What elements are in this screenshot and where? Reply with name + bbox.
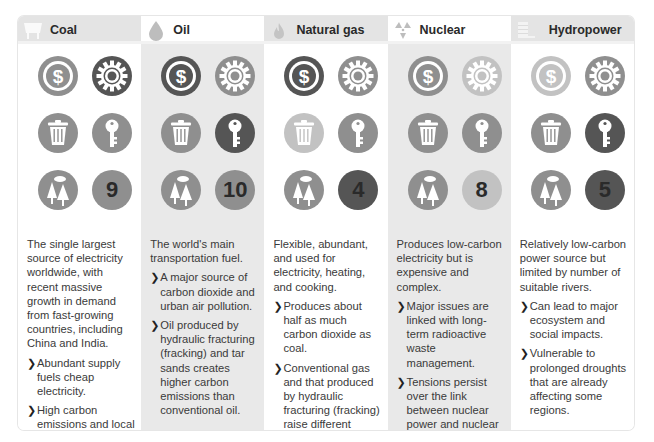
score-badge: 4: [338, 170, 378, 210]
score-value: 10: [223, 177, 247, 203]
bullet-item: ❯Produces about half as much carbon diox…: [273, 299, 381, 356]
rating-icons: $9: [18, 56, 141, 228]
score-value: 8: [475, 177, 487, 203]
chevron-right-icon: ❯: [520, 346, 529, 360]
gear-icon: [92, 56, 132, 96]
energy-column-coal: Coal $9 The single largest source of ele…: [18, 16, 141, 430]
intro-text: The single largest source of electricity…: [27, 237, 135, 351]
column-header: Nuclear: [388, 16, 511, 44]
svg-text:$: $: [545, 66, 556, 87]
description: Flexible, abundant, and used for electri…: [273, 237, 381, 430]
svg-text:$: $: [53, 66, 64, 87]
column-title: Nuclear: [420, 23, 466, 37]
column-title: Hydropower: [549, 23, 622, 37]
bullet-text: Oil produced by hydraulic fracturing (fr…: [160, 319, 255, 416]
bullet-text: Conventional gas and that produced by hy…: [283, 362, 379, 430]
chevron-right-icon: ❯: [520, 299, 529, 313]
score-badge: 8: [462, 170, 502, 210]
coal-cart-icon: [22, 19, 44, 41]
bullet-item: ❯A major source of carbon dioxide and ur…: [150, 270, 258, 313]
dollar-icon: $: [38, 56, 78, 96]
description: Produces low-carbon electricity but is e…: [397, 237, 505, 430]
gear-icon: [338, 56, 378, 96]
column-body: $5 Relatively low-carbon power source bu…: [511, 44, 634, 430]
column-header: Oil: [141, 16, 264, 44]
energy-column-natural-gas: Natural gas $4 Flexible, abundant, and u…: [264, 16, 387, 430]
energy-column-nuclear: Nuclear $8 Produces low-carbon electrici…: [388, 16, 511, 430]
intro-text: Relatively low-carbon power source but l…: [520, 237, 628, 294]
gas-flame-icon: [268, 19, 290, 41]
description: Relatively low-carbon power source but l…: [520, 237, 628, 422]
trash-icon: [531, 113, 571, 153]
rating-icons: $4: [264, 56, 387, 228]
gear-icon: [462, 56, 502, 96]
score-value: 4: [352, 177, 364, 203]
chevron-right-icon: ❯: [27, 356, 36, 370]
gear-icon: [585, 56, 625, 96]
key-icon: [92, 113, 132, 153]
energy-column-oil: Oil $10 The world's main transportation …: [141, 16, 264, 430]
trash-icon: [408, 113, 448, 153]
energy-comparison-table: Coal $9 The single largest source of ele…: [18, 16, 634, 430]
description: The world's main transportation fuel.❯A …: [150, 237, 258, 422]
column-body: $9 The single largest source of electric…: [18, 44, 141, 430]
bullet-text: Major issues are linked with long-term r…: [407, 300, 489, 369]
score-badge: 9: [92, 170, 132, 210]
bullet-item: ❯Conventional gas and that produced by h…: [273, 361, 381, 430]
dollar-icon: $: [161, 56, 201, 96]
key-icon: [215, 113, 255, 153]
chevron-right-icon: ❯: [273, 361, 282, 375]
column-body: $4 Flexible, abundant, and used for elec…: [264, 44, 387, 430]
bullet-item: ❯High carbon emissions and local air pol…: [27, 403, 135, 430]
bullet-text: Produces about half as much carbon dioxi…: [283, 300, 371, 355]
chevron-right-icon: ❯: [150, 270, 159, 284]
energy-column-hydropower: Hydropower $5 Relatively low-carbon powe…: [511, 16, 634, 430]
trees-icon: [284, 170, 324, 210]
trash-icon: [161, 113, 201, 153]
intro-text: The world's main transportation fuel.: [150, 237, 258, 265]
bullet-text: A major source of carbon dioxide and urb…: [160, 271, 255, 311]
bullet-text: Abundant supply fuels cheap electricity.: [37, 357, 120, 397]
bullet-text: Can lead to major ecosystem and social i…: [530, 300, 618, 340]
svg-text:$: $: [422, 66, 433, 87]
bullet-item: ❯Tensions persist over the link between …: [397, 375, 505, 430]
column-header: Hydropower: [511, 16, 634, 44]
column-header: Coal: [18, 16, 141, 44]
dollar-icon: $: [531, 56, 571, 96]
trees-icon: [531, 170, 571, 210]
score-badge: 5: [585, 170, 625, 210]
key-icon: [585, 113, 625, 153]
bullet-item: ❯Major issues are linked with long-term …: [397, 299, 505, 370]
gear-icon: [215, 56, 255, 96]
column-title: Natural gas: [296, 23, 364, 37]
column-header: Natural gas: [264, 16, 387, 44]
key-icon: [338, 113, 378, 153]
column-title: Oil: [173, 23, 190, 37]
score-value: 5: [599, 177, 611, 203]
intro-text: Flexible, abundant, and used for electri…: [273, 237, 381, 294]
column-body: $10 The world's main transportation fuel…: [141, 44, 264, 430]
chevron-right-icon: ❯: [273, 299, 282, 313]
chevron-right-icon: ❯: [397, 299, 406, 313]
trees-icon: [161, 170, 201, 210]
bullet-item: ❯Abundant supply fuels cheap electricity…: [27, 356, 135, 399]
bullet-item: ❯Can lead to major ecosystem and social …: [520, 299, 628, 342]
bullet-text: High carbon emissions and local air poll…: [37, 404, 135, 430]
column-title: Coal: [50, 23, 77, 37]
bullet-item: ❯Vulnerable to prolonged droughts that a…: [520, 346, 628, 417]
radiation-icon: [392, 19, 414, 41]
chevron-right-icon: ❯: [150, 318, 159, 332]
bullet-text: Tensions persist over the link between n…: [407, 376, 499, 430]
dam-icon: [515, 19, 537, 41]
score-value: 9: [106, 177, 118, 203]
dollar-icon: $: [284, 56, 324, 96]
rating-icons: $10: [141, 56, 264, 228]
trees-icon: [408, 170, 448, 210]
svg-text:$: $: [299, 66, 310, 87]
trash-icon: [38, 113, 78, 153]
rating-icons: $8: [388, 56, 511, 228]
key-icon: [462, 113, 502, 153]
dollar-icon: $: [408, 56, 448, 96]
trees-icon: [38, 170, 78, 210]
bullet-item: ❯Oil produced by hydraulic fracturing (f…: [150, 318, 258, 417]
